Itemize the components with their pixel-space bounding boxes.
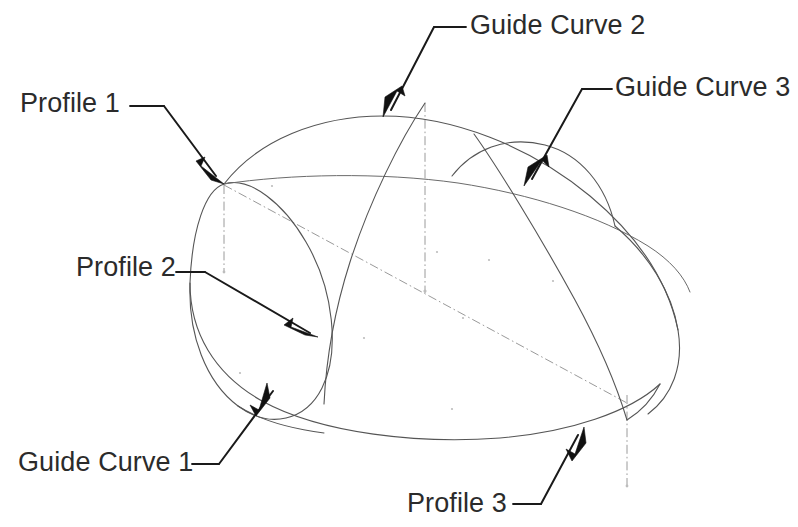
- profile-3-leader: [541, 435, 578, 504]
- label-profile-1: Profile 1: [20, 88, 120, 119]
- profile-1-ellipse-path: [190, 183, 332, 420]
- profile-3-arc-path: [474, 134, 627, 420]
- bottom-right-closure-path: [627, 384, 660, 420]
- guide-curve-2-leader: [391, 27, 434, 110]
- label-profile-2: Profile 2: [76, 252, 176, 283]
- centerline-group: [224, 103, 627, 490]
- right-dome-side-path: [615, 226, 680, 414]
- guide-curve-2-path: [224, 116, 678, 330]
- profile-3-arrowhead: [566, 427, 586, 461]
- right-dome-arc-path: [452, 142, 615, 226]
- diagram-canvas: Profile 1 Guide Curve 2 Guide Curve 3 Pr…: [0, 0, 798, 527]
- label-guide-curve-3: Guide Curve 3: [615, 72, 790, 103]
- label-profile-3: Profile 3: [407, 488, 507, 519]
- guide-curve-3-path: [224, 176, 690, 292]
- guide-curve-1-path: [190, 283, 660, 440]
- guide-curve-3-leader: [532, 89, 582, 179]
- profile-1-arrowhead: [196, 157, 224, 184]
- profile-1-leader: [164, 106, 216, 176]
- guide-curve-2-arrowhead: [383, 86, 405, 117]
- profile-2-arc-path: [324, 103, 425, 404]
- centerline-axis-diagonal: [224, 185, 627, 403]
- label-guide-curve-2: Guide Curve 2: [470, 10, 645, 41]
- scan-specks: [223, 185, 629, 488]
- label-guide-curve-1: Guide Curve 1: [18, 447, 193, 478]
- profile-2-leader: [205, 272, 310, 333]
